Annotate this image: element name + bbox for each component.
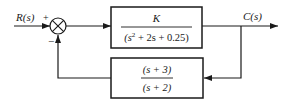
summing-junction: + − [43, 12, 66, 47]
minus-sign: − [48, 35, 54, 47]
plus-sign: + [43, 12, 49, 23]
output-label: C(s) [243, 10, 262, 23]
feedback-denominator: (s + 2) [143, 82, 172, 94]
output-signal: C(s) [202, 10, 278, 26]
forward-numerator: K [152, 12, 161, 24]
feedback-branch-line [204, 26, 241, 78]
block-diagram: R(s) + − K (s2 + 2s + 0.25) C(s) (s + 3)… [0, 0, 287, 108]
feedback-numerator: (s + 3) [143, 64, 172, 76]
feedback-block: (s + 3) (s + 2) [111, 58, 203, 98]
input-label: R(s) [15, 11, 35, 24]
forward-block: K (s2 + 2s + 0.25) [111, 7, 202, 48]
feedback-return-line [58, 35, 111, 78]
